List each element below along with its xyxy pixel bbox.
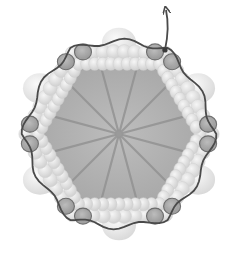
ring-diagram-svg xyxy=(0,0,239,260)
highlighted-subunit xyxy=(74,44,91,60)
exit-point-dot xyxy=(162,47,167,52)
ring-diagram xyxy=(0,0,239,260)
exit-arrow xyxy=(165,10,168,50)
highlighted-subunit xyxy=(147,208,164,224)
highlighted-subunit xyxy=(74,208,91,224)
highlighted-subunit xyxy=(147,44,164,60)
central-hub xyxy=(116,131,122,137)
